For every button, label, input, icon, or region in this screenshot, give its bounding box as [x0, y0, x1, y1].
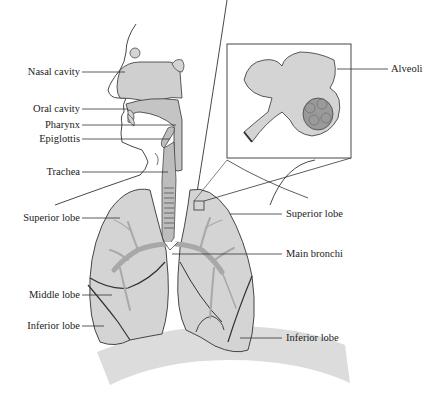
- left-lung: [90, 189, 169, 344]
- respiratory-diagram: Nasal cavity Oral cavity Pharynx Epiglot…: [0, 0, 447, 402]
- label-nasal-cavity: Nasal cavity: [28, 66, 80, 78]
- label-trachea: Trachea: [47, 166, 80, 178]
- anatomy-illustration: [0, 0, 447, 402]
- right-lung: [178, 189, 255, 352]
- label-alveoli: Alveoli: [391, 63, 423, 75]
- label-pharynx: Pharynx: [45, 119, 80, 131]
- neck-line: [195, 0, 227, 205]
- nasal-cavity-shape: [117, 62, 182, 102]
- label-superior-lobe-left: Superior lobe: [23, 212, 80, 224]
- label-oral-cavity: Oral cavity: [33, 103, 80, 115]
- trachea-shape: [162, 142, 176, 246]
- label-superior-lobe-right: Superior lobe: [286, 208, 343, 220]
- label-middle-lobe: Middle lobe: [29, 289, 80, 301]
- label-epiglottis: Epiglottis: [39, 133, 80, 145]
- label-main-bronchi: Main bronchi: [286, 248, 343, 260]
- label-inferior-lobe-left: Inferior lobe: [27, 320, 80, 332]
- label-inferior-lobe-right: Inferior lobe: [286, 332, 339, 344]
